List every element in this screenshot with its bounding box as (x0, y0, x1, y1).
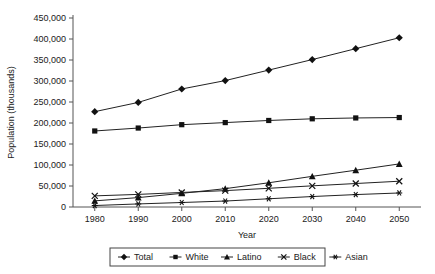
marker-diamond (309, 56, 316, 63)
legend-label: Total (134, 252, 153, 262)
y-tick-label: 350,000 (33, 55, 66, 65)
series-total (91, 34, 403, 115)
x-tick-label: 1980 (85, 214, 105, 224)
y-axis-title: Population (thousands) (6, 66, 16, 159)
y-tick-label: 400,000 (33, 34, 66, 44)
y-tick-label: 450,000 (33, 13, 66, 23)
marker-diamond (135, 99, 142, 106)
y-tick-label: 150,000 (33, 139, 66, 149)
series-white (92, 115, 402, 134)
legend-label: Latino (237, 252, 262, 262)
marker-triangle (396, 161, 403, 167)
marker-square (353, 115, 358, 120)
x-tick-label: 2050 (389, 214, 409, 224)
y-tick-label: 250,000 (33, 97, 66, 107)
marker-square (173, 255, 177, 259)
x-tick-label: 2040 (346, 214, 366, 224)
population-projection-chart: 050,000100,000150,000200,000250,000300,0… (0, 0, 435, 274)
series-line (95, 181, 400, 196)
marker-diamond (265, 66, 272, 73)
marker-diamond (178, 85, 185, 92)
marker-diamond (396, 34, 403, 41)
legend-label: Asian (345, 252, 368, 262)
x-tick-label: 2020 (259, 214, 279, 224)
marker-square (310, 116, 315, 121)
y-tick-label: 0 (61, 202, 66, 212)
x-tick-label: 1990 (128, 214, 148, 224)
marker-diamond (91, 108, 98, 115)
legend-label: White (186, 252, 209, 262)
x-tick-label: 2030 (302, 214, 322, 224)
y-tick-label: 300,000 (33, 76, 66, 86)
legend-label: Black (294, 252, 317, 262)
x-axis-title: Year (238, 230, 256, 240)
marker-diamond (222, 77, 229, 84)
y-tick-label: 50,000 (38, 181, 66, 191)
marker-square (223, 120, 228, 125)
marker-square (136, 125, 141, 130)
marker-square (266, 118, 271, 123)
legend-item-asian[interactable]: Asian (329, 252, 368, 262)
series-latino (91, 161, 402, 204)
marker-square (92, 128, 97, 133)
marker-square (179, 122, 184, 127)
series-line (95, 164, 400, 201)
y-tick-label: 100,000 (33, 160, 66, 170)
marker-diamond (352, 45, 359, 52)
chart-legend: TotalWhiteLatinoBlackAsian (110, 248, 368, 266)
x-tick-label: 2000 (172, 214, 192, 224)
marker-square (397, 115, 402, 120)
chart-canvas: 050,000100,000150,000200,000250,000300,0… (0, 0, 435, 274)
x-tick-label: 2010 (215, 214, 235, 224)
y-tick-label: 200,000 (33, 118, 66, 128)
